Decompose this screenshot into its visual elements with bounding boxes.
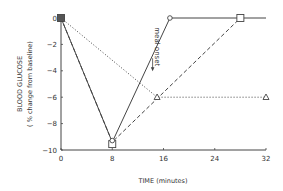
- chart-canvas: 0−2−4−6−8−1008162432 meal onset TIME (mi…: [0, 0, 283, 191]
- annotation-layer: meal onset: [151, 27, 161, 71]
- series-solid-circle: [61, 18, 266, 142]
- y-tick-label: 0: [53, 15, 57, 23]
- x-tick-label: 24: [210, 155, 219, 163]
- circle-marker: [168, 16, 173, 21]
- y-axis-title: BLOOD GLUCOSE: [16, 56, 24, 112]
- square-marker: [237, 15, 244, 22]
- y-tick-label: −10: [42, 147, 57, 155]
- arrowhead-icon: [151, 67, 155, 71]
- x-tick-label: 0: [59, 155, 63, 163]
- circle-marker: [110, 138, 115, 143]
- origin-marker: [58, 15, 65, 22]
- y-tick-label: −8: [47, 120, 57, 128]
- x-tick-label: 32: [262, 155, 271, 163]
- x-tick-label: 8: [110, 155, 114, 163]
- y-axis-subtitle: ( % change from baseline): [26, 41, 34, 127]
- x-tick-label: 16: [159, 155, 168, 163]
- meal-onset-label: meal onset: [153, 27, 161, 66]
- series-dotted-triangle: [61, 18, 266, 97]
- series-layer: [58, 15, 270, 148]
- y-tick-label: −2: [47, 41, 57, 49]
- x-axis-title: TIME (minutes): [137, 177, 187, 185]
- y-tick-label: −6: [47, 94, 58, 102]
- y-tick-label: −4: [47, 67, 58, 75]
- series-dashed-square: [61, 18, 240, 142]
